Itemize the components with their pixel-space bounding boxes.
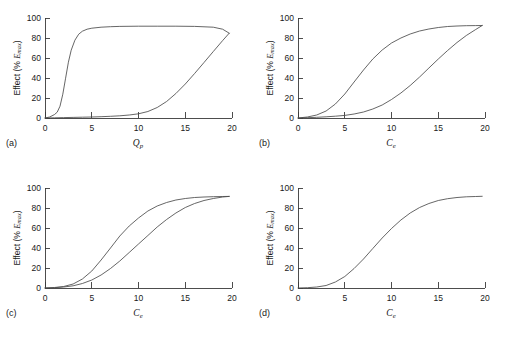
panel-a-y-ticklabels: 100 80 60 40 20 0	[27, 13, 41, 123]
panel-a-x-ticklabels: 0 5 10 15 20	[43, 123, 237, 133]
svg-text:15: 15	[434, 293, 444, 303]
svg-text:0: 0	[296, 293, 301, 303]
panel-b-curve-descending	[298, 26, 482, 119]
panel-a-y-axis-title: Effect (% Emax)	[12, 40, 22, 95]
svg-text:60: 60	[32, 223, 42, 233]
svg-text:0: 0	[43, 123, 48, 133]
svg-text:20: 20	[285, 263, 295, 273]
svg-text:0: 0	[43, 293, 48, 303]
svg-text:80: 80	[32, 203, 42, 213]
svg-text:5: 5	[342, 123, 347, 133]
svg-text:20: 20	[480, 123, 490, 133]
svg-text:0: 0	[296, 123, 301, 133]
panel-b-axes	[298, 18, 485, 118]
svg-text:10: 10	[387, 123, 397, 133]
svg-text:0: 0	[289, 283, 294, 293]
svg-text:5: 5	[89, 123, 94, 133]
panel-c-x-ticklabels: 0 5 10 15 20	[43, 293, 237, 303]
panel-b-plot: 100 80 60 40 20 0 0 5 10 15 20 Ce Effect…	[253, 0, 506, 170]
svg-text:20: 20	[227, 293, 237, 303]
panel-c-x-ticks	[45, 282, 232, 288]
panel-a-axes	[45, 18, 232, 118]
panel-b-x-axis-title: Ce	[386, 138, 395, 149]
svg-text:60: 60	[32, 53, 42, 63]
panel-c-axes	[45, 188, 232, 288]
panel-d-x-ticklabels: 0 5 10 15 20	[296, 293, 490, 303]
panel-d-y-axis-title: Effect (% Emax)	[265, 210, 275, 265]
panel-c-x-axis-title: Ce	[133, 308, 142, 319]
svg-text:100: 100	[280, 13, 294, 23]
svg-text:100: 100	[27, 13, 41, 23]
panel-a-y-ticks	[45, 18, 50, 118]
svg-text:80: 80	[32, 33, 42, 43]
panel-d-y-ticklabels: 100 80 60 40 20 0	[280, 183, 294, 293]
svg-text:20: 20	[227, 123, 237, 133]
panel-d-y-ticks	[298, 188, 303, 288]
panel-a-label: (a)	[6, 138, 17, 148]
panel-b: 100 80 60 40 20 0 0 5 10 15 20 Ce Effect…	[253, 0, 506, 170]
panel-c-plot: 100 80 60 40 20 0 0 5 10 15 20 Ce Effect…	[0, 170, 253, 340]
panel-a: 100 80 60 40 20 0 0 5 10 15 20 Qp Effect…	[0, 0, 253, 170]
panel-d-axes	[298, 188, 485, 288]
panel-b-y-ticklabels: 100 80 60 40 20 0	[280, 13, 294, 123]
panel-b-y-axis-title: Effect (% Emax)	[265, 40, 275, 95]
panel-d-curve-single	[298, 196, 482, 288]
svg-text:20: 20	[480, 293, 490, 303]
svg-text:40: 40	[285, 243, 295, 253]
svg-text:60: 60	[285, 53, 295, 63]
svg-text:10: 10	[134, 293, 144, 303]
svg-text:40: 40	[32, 243, 42, 253]
panel-c-curve-ascending	[45, 196, 229, 288]
svg-text:40: 40	[285, 73, 295, 83]
panel-a-x-axis-title: Qp	[133, 138, 144, 149]
svg-text:10: 10	[134, 123, 144, 133]
svg-text:0: 0	[289, 113, 294, 123]
svg-text:60: 60	[285, 223, 295, 233]
svg-text:5: 5	[342, 293, 347, 303]
panel-d-x-axis-title: Ce	[386, 308, 395, 319]
svg-text:15: 15	[181, 293, 191, 303]
panel-b-x-ticklabels: 0 5 10 15 20	[296, 123, 490, 133]
panel-c-y-ticklabels: 100 80 60 40 20 0	[27, 183, 41, 293]
panel-b-label: (b)	[259, 138, 270, 148]
panel-c-label: (c)	[6, 308, 17, 318]
panel-c-y-ticks	[45, 188, 50, 288]
panel-d: 100 80 60 40 20 0 0 5 10 15 20 Ce Effect…	[253, 170, 506, 340]
panel-c-curve-descending	[45, 196, 229, 288]
svg-text:80: 80	[285, 33, 295, 43]
svg-text:0: 0	[36, 113, 41, 123]
panel-b-y-ticks	[298, 18, 303, 118]
svg-text:15: 15	[181, 123, 191, 133]
panel-c-y-axis-title: Effect (% Emax)	[12, 210, 22, 265]
svg-text:0: 0	[36, 283, 41, 293]
svg-text:15: 15	[434, 123, 444, 133]
panel-d-plot: 100 80 60 40 20 0 0 5 10 15 20 Ce Effect…	[253, 170, 506, 340]
svg-text:40: 40	[32, 73, 42, 83]
svg-text:20: 20	[32, 93, 42, 103]
svg-text:100: 100	[280, 183, 294, 193]
svg-text:20: 20	[32, 263, 42, 273]
panel-b-curve-ascending	[298, 26, 482, 119]
svg-text:100: 100	[27, 183, 41, 193]
panel-a-plot: 100 80 60 40 20 0 0 5 10 15 20 Qp Effect…	[0, 0, 253, 170]
svg-text:80: 80	[285, 203, 295, 213]
svg-text:20: 20	[285, 93, 295, 103]
panel-a-curve-ascending	[45, 26, 229, 118]
panel-c: 100 80 60 40 20 0 0 5 10 15 20 Ce Effect…	[0, 170, 253, 340]
panel-d-x-ticks	[298, 282, 485, 288]
svg-text:5: 5	[89, 293, 94, 303]
pharmacodynamic-hysteresis-figure: 100 80 60 40 20 0 0 5 10 15 20 Qp Effect…	[0, 0, 507, 340]
panel-d-label: (d)	[259, 308, 270, 318]
svg-text:10: 10	[387, 293, 397, 303]
